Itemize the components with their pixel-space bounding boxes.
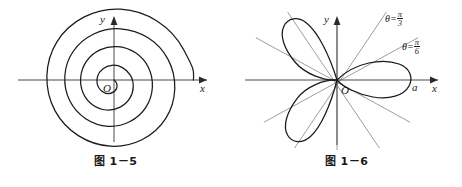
x-axis-label: x [200, 83, 205, 94]
theta-equals-text: θ= [402, 41, 414, 52]
spiral-curve [47, 9, 194, 146]
figure-three-petal-rose: y x O a θ=π3 θ=π6 图 1－6 [231, 0, 462, 187]
figure-caption: 图 1－6 [231, 152, 462, 168]
y-axis-label: y [324, 14, 329, 25]
rose-plot-area [231, 0, 462, 155]
ray-label-theta-pi-6: θ=π6 [402, 38, 420, 57]
ray-label-theta-pi-3: θ=π3 [385, 10, 403, 29]
origin-label: O [103, 83, 111, 94]
figure-caption: 图 1－5 [0, 152, 231, 168]
fraction-pi-over-6: π6 [414, 38, 420, 57]
petal-tip-label-a: a [412, 82, 418, 93]
x-axis [245, 77, 438, 84]
spiral-plot-area [0, 0, 231, 155]
y-axis-label: y [100, 14, 105, 25]
figure-pair-page: y x O 图 1－5 [0, 0, 462, 187]
origin-label: O [341, 85, 349, 96]
fraction-pi-over-3: π3 [397, 10, 403, 29]
theta-equals-text: θ= [385, 13, 397, 24]
figure-archimedean-spiral: y x O 图 1－5 [0, 0, 231, 187]
x-axis-label: x [432, 83, 437, 94]
y-axis [111, 16, 118, 142]
